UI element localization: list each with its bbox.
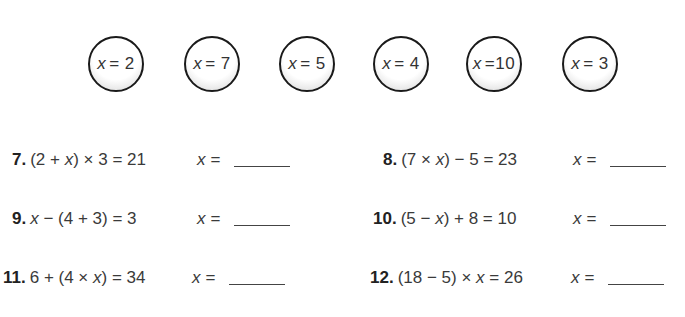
problem-7: 7.(2 + x) × 3 = 21 — [12, 148, 146, 172]
problem-number: 10. — [373, 209, 397, 228]
answer-label: x = — [192, 268, 215, 287]
equation-part: ) = 34 — [102, 268, 146, 287]
answer-8: x = — [573, 148, 666, 172]
equals-sign: = — [394, 54, 404, 74]
variable: x — [476, 268, 485, 287]
choice-value: 10 — [495, 54, 515, 74]
variable: x — [193, 54, 202, 74]
equation-part: (7 × — [401, 150, 436, 169]
problem-10: 10.(5 − x) + 8 = 10 — [373, 207, 516, 231]
equation-part: (5 − — [401, 209, 436, 228]
answer-10: x = — [573, 207, 666, 231]
variable: x — [382, 54, 391, 74]
answer-blank[interactable] — [610, 148, 666, 167]
problem-8: 8.(7 × x) − 5 = 23 — [383, 148, 517, 172]
answer-label: x = — [197, 209, 220, 228]
variable: x — [473, 54, 482, 74]
answer-choice-bubble: x = 7 — [184, 36, 240, 92]
equation-part: = 26 — [485, 268, 523, 287]
answer-label: x = — [573, 150, 596, 169]
variable: x — [288, 54, 297, 74]
choice-value: 2 — [125, 54, 135, 74]
answer-blank[interactable] — [610, 207, 666, 226]
problem-9: 9.x − (4 + 3) = 3 — [12, 207, 137, 231]
problem-11: 11.6 + (4 × x) = 34 — [3, 266, 145, 290]
choice-value: 7 — [221, 54, 231, 74]
variable: x — [93, 268, 102, 287]
equation-part: (18 − 5) × — [398, 268, 476, 287]
answer-blank[interactable] — [234, 148, 290, 167]
answer-label: x = — [573, 209, 596, 228]
equals-sign: = — [300, 54, 310, 74]
problem-12: 12.(18 − 5) × x = 26 — [370, 266, 523, 290]
equation-part: ) − 5 = 23 — [444, 150, 517, 169]
answer-blank[interactable] — [608, 266, 664, 285]
problem-number: 7. — [12, 150, 26, 169]
answer-label: x = — [571, 268, 594, 287]
variable: x — [97, 54, 106, 74]
answer-choice-bubble: x = 4 — [373, 36, 429, 92]
variable: x — [65, 150, 74, 169]
choice-value: 3 — [599, 54, 609, 74]
problem-number: 11. — [3, 268, 26, 287]
answer-choice-bubble: x = 3 — [562, 36, 618, 92]
equals-sign: = — [583, 54, 593, 74]
choice-value: 5 — [316, 54, 326, 74]
answer-blank[interactable] — [229, 266, 285, 285]
problem-number: 9. — [12, 209, 26, 228]
answer-label: x = — [197, 150, 220, 169]
answer-choice-bubble: x =10 — [466, 36, 522, 92]
variable: x — [436, 150, 445, 169]
choice-value: 4 — [410, 54, 420, 74]
answer-blank[interactable] — [234, 207, 290, 226]
equation-part: − (4 + 3) = 3 — [39, 209, 137, 228]
problem-number: 12. — [370, 268, 394, 287]
variable: x — [30, 209, 39, 228]
answer-12: x = — [571, 266, 664, 290]
equation-part: (2 + — [30, 150, 65, 169]
problem-number: 8. — [383, 150, 397, 169]
equals-sign: = — [109, 54, 119, 74]
equation-part: 6 + (4 × — [30, 268, 93, 287]
answer-9: x = — [197, 207, 290, 231]
equation-part: ) × 3 = 21 — [73, 150, 146, 169]
variable: x — [435, 209, 444, 228]
variable: x — [571, 54, 580, 74]
answer-choice-bubble: x = 2 — [88, 36, 144, 92]
answer-11: x = — [192, 266, 285, 290]
answer-7: x = — [197, 148, 290, 172]
equation-part: ) + 8 = 10 — [444, 209, 517, 228]
equals-sign: = — [485, 54, 495, 74]
answer-choice-bubble: x = 5 — [279, 36, 335, 92]
equals-sign: = — [205, 54, 215, 74]
